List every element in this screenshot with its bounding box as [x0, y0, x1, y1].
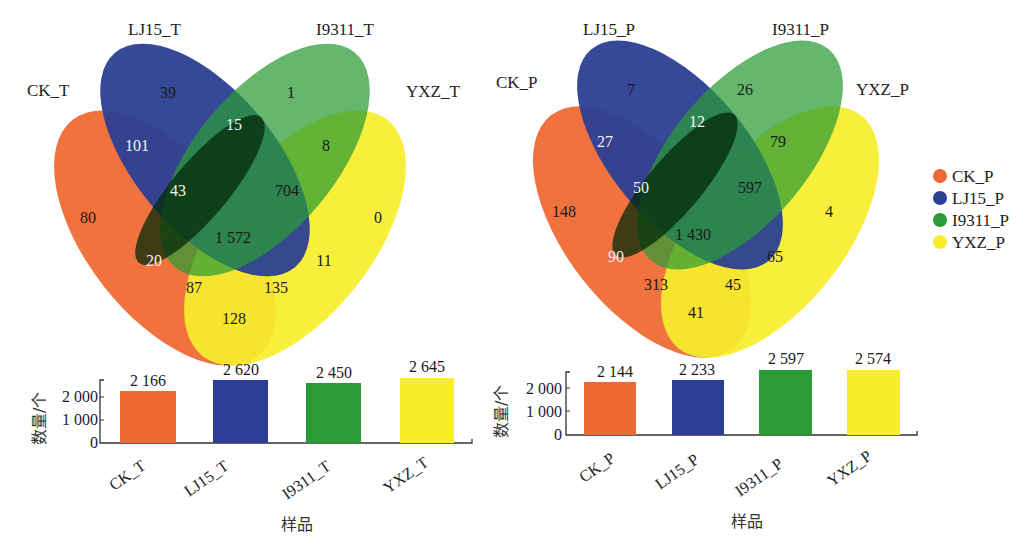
bar-value-label: 2 233	[679, 361, 715, 378]
region-value: 11	[316, 252, 331, 269]
region-value: 148	[552, 203, 576, 220]
bar-right-xtick: YXZ_P	[824, 447, 875, 490]
venn-left-label-i9311: I9311_T	[316, 20, 375, 39]
bar-right-ytick: 0	[554, 426, 562, 443]
bar-i9311-t	[306, 383, 361, 443]
region-value: 65	[767, 248, 783, 265]
bar-left-ytick: 2 000	[62, 388, 98, 405]
legend-swatch-ck	[933, 169, 947, 183]
venn-right-label-ck: CK_P	[496, 73, 538, 92]
region-value: 704	[275, 182, 299, 199]
region-value: 1 430	[675, 226, 711, 243]
region-value: 12	[689, 113, 705, 130]
region-value: 8	[322, 137, 330, 154]
bar-lj15-t	[213, 380, 268, 443]
region-value: 1	[287, 84, 295, 101]
region-value: 597	[738, 179, 762, 196]
bar-right-ytick: 2 000	[526, 380, 562, 397]
bar-value-label: 2 645	[409, 358, 445, 375]
bar-yxz-t	[400, 378, 454, 443]
legend-swatch-yxz	[933, 235, 947, 249]
region-value: 15	[226, 116, 242, 133]
bar-right-xtick: LJ15_P	[652, 450, 702, 492]
bar-ck-p	[584, 382, 636, 435]
bar-left-ylabel: 数量/个	[30, 392, 49, 445]
region-value: 50	[633, 179, 649, 196]
bar-lj15-p	[672, 380, 724, 435]
region-value: 87	[186, 279, 202, 296]
venn-left-label-ck: CK_T	[27, 81, 70, 100]
venn-right-label-lj15: LJ15_P	[583, 20, 635, 39]
legend-label: LJ15_P	[952, 189, 1004, 208]
bar-i9311-p	[759, 370, 812, 435]
bar-value-label: 2 450	[316, 364, 352, 381]
region-value: 0	[374, 209, 382, 226]
bar-chart-right: 数量/个 2 000 1 000 0 2 144 2 233 2 597 2 5…	[492, 350, 917, 531]
region-value: 27	[597, 133, 613, 150]
legend-label: CK_P	[952, 167, 994, 186]
region-value: 135	[264, 279, 288, 296]
region-value: 4	[825, 203, 833, 220]
bar-value-label: 2 620	[223, 361, 259, 378]
legend-label: YXZ_P	[952, 233, 1005, 252]
region-value: 80	[80, 209, 96, 226]
region-value: 90	[608, 248, 624, 265]
bar-left-xlabel: 样品	[281, 515, 313, 534]
venn-left-label-yxz: YXZ_T	[406, 82, 460, 101]
legend: CK_P LJ15_P I9311_P YXZ_P	[933, 167, 1009, 252]
bar-chart-left: 数量/个 2 000 1 000 0 2 166 2 620 2 450 2 6…	[30, 358, 472, 534]
bar-right-xtick: CK_P	[576, 449, 618, 485]
region-value: 7	[627, 81, 635, 98]
venn-right-label-yxz: YXZ_P	[856, 80, 909, 99]
bar-right-ylabel: 数量/个	[492, 385, 511, 438]
region-value: 41	[688, 304, 704, 321]
region-value: 39	[160, 84, 176, 101]
venn-right-label-i9311: I9311_P	[772, 20, 829, 39]
bar-yxz-p	[847, 370, 900, 435]
bar-value-label: 2 166	[130, 372, 166, 389]
region-value: 20	[146, 252, 162, 269]
bar-right-xlabel: 样品	[731, 512, 763, 531]
bar-left-xtick: LJ15_T	[181, 457, 232, 500]
region-value: 45	[725, 276, 741, 293]
bar-left-ytick: 0	[90, 434, 98, 451]
bar-left-xtick: CK_T	[106, 456, 149, 493]
bar-right-xtick: I9311_P	[732, 455, 786, 500]
bar-left-xtick: I9311_T	[279, 457, 334, 502]
bar-right-ytick: 1 000	[526, 403, 562, 420]
venn-left: CK_T LJ15_T I9311_T YXZ_T 39 1 15 101 8 …	[11, 8, 460, 404]
legend-swatch-lj15	[933, 191, 947, 205]
bar-left-xtick: YXZ_T	[380, 453, 431, 496]
region-value: 43	[170, 182, 186, 199]
bar-ck-t	[120, 391, 176, 443]
bar-left-ytick: 1 000	[62, 411, 98, 428]
region-value: 79	[770, 133, 786, 150]
region-value: 128	[222, 310, 246, 327]
bar-value-label: 2 574	[855, 350, 891, 367]
bar-value-label: 2 597	[768, 350, 804, 367]
region-value: 1 572	[215, 229, 251, 246]
legend-swatch-i9311	[933, 213, 947, 227]
region-value: 313	[644, 276, 668, 293]
region-value: 101	[125, 137, 149, 154]
region-value: 26	[737, 81, 753, 98]
venn-left-label-lj15: LJ15_T	[128, 20, 182, 39]
legend-label: I9311_P	[952, 211, 1009, 230]
venn-right: CK_P LJ15_P I9311_P YXZ_P 7 26 12 27 79 …	[491, 6, 921, 396]
bar-value-label: 2 144	[597, 363, 633, 380]
